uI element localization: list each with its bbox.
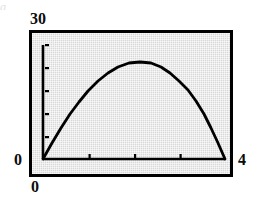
data-curve (43, 62, 225, 159)
x-axis-ticks (89, 154, 182, 158)
plot-canvas (32, 33, 230, 174)
plot-svg (32, 33, 230, 174)
y-axis-zero-label: 0 (14, 152, 22, 168)
x-axis-zero-label: 0 (31, 179, 39, 195)
y-axis-max-label: 30 (30, 11, 46, 27)
y-axis-ticks (45, 44, 49, 138)
plot-frame (29, 30, 233, 177)
x-axis-max-label: 4 (238, 152, 246, 168)
chart-figure: 30 0 4 0 (0, 0, 254, 198)
